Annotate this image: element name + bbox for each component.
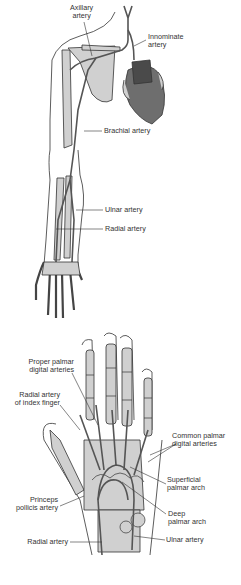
heart — [123, 60, 165, 124]
label-princeps-pollicis-artery: Princeps pollicis artery — [2, 496, 58, 513]
label-radial-artery-index-finger: Radial artery of index finger — [4, 391, 60, 408]
label-radial-artery: Radial artery — [105, 225, 146, 233]
label-line: artery — [70, 12, 93, 20]
label-line: palmar arch — [167, 484, 205, 492]
label-common-palmar-digital-arteries: Common palmar digital arteries — [172, 432, 225, 449]
label-line: artery — [148, 41, 184, 49]
small-hand — [36, 262, 82, 318]
label-proper-palmar-digital-arteries: Proper palmar digital arteries — [18, 358, 74, 375]
label-brachial-artery: Brachial artery — [104, 127, 150, 135]
label-line: palmar arch — [168, 518, 206, 526]
label-line: of index finger — [4, 399, 60, 407]
label-axillary-artery: Axillary artery — [70, 4, 93, 21]
arm-figure — [36, 6, 165, 318]
label-ulnar-artery: Ulnar artery — [105, 206, 143, 214]
label-superficial-palmar-arch: Superficial palmar arch — [167, 476, 205, 493]
label-deep-palmar-arch: Deep palmar arch — [168, 510, 206, 527]
label-line: digital arteries — [172, 440, 225, 448]
label-radial-artery-hand: Radial artery — [2, 538, 68, 546]
label-line: pollicis artery — [2, 504, 58, 512]
label-ulnar-artery-hand: Ulnar artery — [166, 536, 204, 544]
label-innominate-artery: Innominate artery — [148, 33, 184, 50]
label-line: digital arteries — [18, 366, 74, 374]
